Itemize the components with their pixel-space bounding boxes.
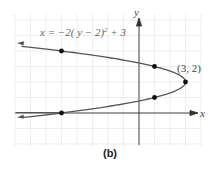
data-point [183, 80, 188, 85]
data-point [59, 49, 64, 54]
data-point [59, 111, 64, 116]
data-point [152, 95, 157, 100]
x-axis-label: x [199, 107, 205, 119]
figure-caption: (b) [0, 147, 220, 159]
y-axis-arrow-icon [137, 18, 142, 26]
equation-label: x = −2( y − 2)2 + 3 [39, 26, 127, 39]
curve-arrow-bottom-icon [17, 114, 24, 118]
y-axis-label: y [133, 6, 139, 18]
curve-arrow-top-icon [17, 41, 24, 45]
data-point [152, 64, 157, 69]
x-axis-arrow-icon [190, 111, 198, 116]
vertex-label: (3, 2) [177, 62, 201, 75]
